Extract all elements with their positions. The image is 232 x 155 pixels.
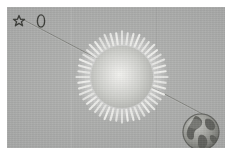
icon-row — [11, 13, 49, 29]
corona-ray — [126, 110, 127, 121]
corona-ray — [155, 81, 166, 82]
earth — [180, 111, 222, 148]
earth-specular — [188, 119, 202, 129]
star-icon[interactable] — [11, 13, 27, 29]
figure-title: Light deflection diagram — [0, 21, 1, 22]
corona-ray — [155, 71, 166, 72]
figure-caption: A distant star, the Sun with its corona,… — [0, 16, 1, 17]
corona-ray — [116, 110, 117, 121]
planet-oval-icon[interactable] — [33, 13, 49, 29]
sun-disc — [91, 46, 153, 108]
sun — [75, 25, 169, 129]
astronomy-figure: Light deflection diagram A distant star,… — [0, 0, 232, 155]
photo-plate — [7, 7, 225, 148]
